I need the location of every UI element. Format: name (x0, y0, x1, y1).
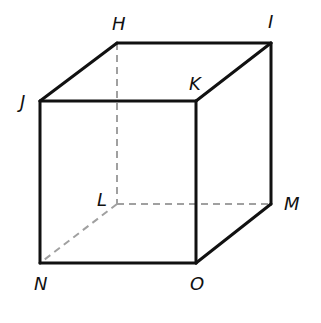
edge-OM (196, 204, 271, 263)
vertex-label-I: I (268, 11, 273, 32)
hidden-edge-LN (40, 204, 117, 263)
vertex-label-M: M (284, 193, 300, 214)
vertex-label-N: N (34, 273, 47, 294)
solid-edges (40, 43, 271, 263)
vertex-label-O: O (190, 273, 204, 294)
vertex-label-L: L (97, 189, 107, 210)
edge-IK (196, 43, 271, 101)
cube-diagram: HIJKLMNO (0, 0, 321, 323)
vertex-label-K: K (189, 73, 202, 94)
edge-HJ (40, 43, 117, 101)
vertex-label-H: H (112, 13, 126, 34)
vertex-label-J: J (17, 91, 25, 112)
